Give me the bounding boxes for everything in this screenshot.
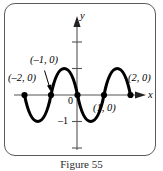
figure-container: (–2, 0) (–1, 0) (1, 0) (2, 0) y x 0 –1 F… <box>0 0 163 171</box>
point-dot-two <box>127 92 133 98</box>
graph-plot <box>0 0 163 171</box>
point-dot-one <box>101 92 107 98</box>
label-point-two: (2, 0) <box>128 73 151 84</box>
point-dot-origin <box>74 92 80 98</box>
point-dot-minus-one <box>48 92 54 98</box>
label-point-one: (1, 0) <box>93 103 116 114</box>
point-dot-minus-two <box>21 92 27 98</box>
label-point-minus-two: (–2, 0) <box>8 73 36 84</box>
origin-tick-label: 0 <box>68 96 73 106</box>
label-point-minus-one: (–1, 0) <box>30 55 58 66</box>
y-tick-label-minus-one: –1 <box>58 116 68 126</box>
x-axis-label: x <box>148 90 153 101</box>
figure-caption: Figure 55 <box>0 158 163 171</box>
x-axis-arrowhead <box>135 91 146 98</box>
y-axis-label: y <box>80 11 85 22</box>
